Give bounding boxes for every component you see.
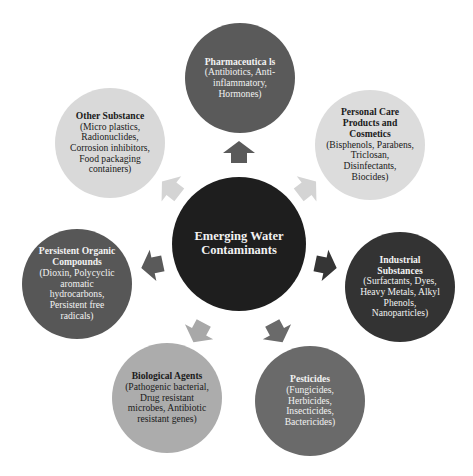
center-label: Emerging Water Contaminants: [182, 230, 296, 258]
node-pharmaceuticals: Pharmaceutica ls(Antibiotics, Anti-infla…: [185, 23, 295, 133]
node-description: (Pathogenic bacterial, Drug resistant mi…: [123, 382, 211, 425]
diagram-canvas: Emerging Water Contaminants Pharmaceutic…: [0, 0, 473, 476]
node-description: (Surfactants, Dyes, Heavy Metals, Alkyl …: [356, 276, 444, 319]
node-persistent-organic: Persistent Organic Compounds(Dioxin, Pol…: [22, 229, 132, 339]
node-title: Industrial Substances: [356, 255, 444, 276]
node-personal-care: Personal Care Products and Cosmetics(Bis…: [315, 90, 425, 200]
node-title: Personal Care Products and Cosmetics: [326, 107, 414, 139]
node-other: Other Substance(Micro plastics, Radionuc…: [55, 88, 165, 198]
node-description: (Bisphenols, Parabens, Triclosan, Disinf…: [326, 140, 414, 183]
node-industrial: Industrial Substances(Surfactants, Dyes,…: [345, 232, 455, 342]
node-pesticides: Pesticides(Fungicides, Herbicides, Insec…: [255, 346, 365, 456]
arrow-to-pesticides-icon: [258, 315, 297, 349]
node-title: Other Substance: [66, 111, 154, 122]
node-description: (Dioxin, Polycyclic aromatic hydrocarbon…: [33, 268, 121, 322]
node-biological: Biological Agents(Pathogenic bacterial, …: [112, 343, 222, 453]
arrow-to-persistent-organic-icon: [138, 248, 166, 284]
node-description: (Antibiotics, Anti-inflammatory, Hormone…: [196, 67, 284, 99]
arrow-to-other-icon: [152, 169, 189, 208]
center-node: Emerging Water Contaminants: [172, 177, 306, 311]
node-description: (Fungicides, Herbicides, Insecticides, B…: [266, 385, 354, 428]
arrow-to-biological-icon: [179, 315, 218, 349]
arrow-to-industrial-icon: [312, 248, 340, 284]
node-description: (Micro plastics, Radionuclides, Corrosio…: [66, 122, 154, 176]
arrow-to-pharmaceuticals-icon: [223, 141, 255, 163]
arrow-to-personal-care-icon: [289, 169, 326, 208]
node-title: Persistent Organic Compounds: [33, 246, 121, 267]
